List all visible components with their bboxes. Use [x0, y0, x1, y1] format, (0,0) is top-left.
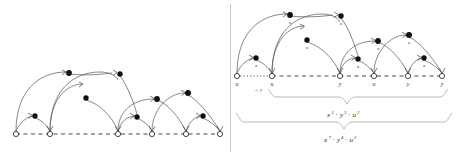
right-arc-15	[408, 58, 421, 73]
node-open-circle	[13, 131, 18, 136]
right-arc-12	[378, 42, 408, 73]
left-derivation-diagram	[13, 70, 223, 137]
lower-brace	[236, 113, 452, 129]
left-arc-15	[186, 116, 200, 131]
upper-brace-formula: x 5 · y 3 · u 2	[326, 110, 360, 120]
right-arc-16	[424, 60, 442, 73]
formula-exponent: 2	[357, 110, 360, 115]
formula-exponent: 5	[332, 110, 335, 115]
node-filled-dot	[185, 90, 191, 96]
baseline-node-label: y	[338, 81, 342, 87]
node-filled-dot	[375, 38, 381, 44]
dot-label: x	[376, 46, 380, 51]
right-arc-5	[307, 42, 340, 73]
formula-term: x	[326, 111, 331, 119]
node-open-circle	[217, 131, 222, 136]
left-arc-5	[86, 100, 118, 131]
dot-label: x	[407, 40, 411, 45]
right-arc-8	[256, 60, 272, 73]
figure-canvas: x x x x x x x x u u y u y y → y x 5 · y …	[0, 0, 462, 155]
node-open-circle	[439, 73, 444, 78]
node-filled-dot	[406, 32, 412, 38]
node-open-circle	[183, 131, 188, 136]
node-open-circle	[337, 73, 342, 78]
maps-to-y-label: → y	[254, 87, 263, 92]
right-arc-2	[272, 14, 340, 73]
node-filled-dot	[66, 70, 72, 76]
node-filled-dot	[287, 12, 293, 18]
left-arc-8	[35, 118, 50, 131]
formula-exponent: 7	[329, 135, 332, 140]
lower-brace-formula: x 7 · y 4 · u 2	[323, 135, 357, 145]
baseline-node-label: u	[271, 81, 274, 87]
left-arc-2	[50, 72, 118, 131]
left-arc-16	[203, 118, 220, 131]
node-filled-dot	[355, 56, 360, 61]
formula-dot: ·	[348, 111, 350, 119]
upper-brace	[268, 89, 448, 104]
dot-label: x	[356, 64, 360, 69]
node-open-circle	[405, 73, 410, 78]
right-filled-dots	[253, 12, 426, 62]
right-arc-1	[237, 14, 287, 73]
node-open-circle	[371, 73, 376, 78]
left-arc-4	[50, 84, 83, 131]
right-baseline-labels: u u y u y y	[236, 81, 444, 87]
right-arc-4	[272, 26, 304, 73]
node-open-circle	[115, 131, 120, 136]
formula-term: u	[353, 111, 357, 119]
baseline-node-label: y	[406, 81, 410, 87]
formula-term: x	[323, 136, 328, 144]
right-dot-labels: x x x x x x x x	[254, 20, 426, 69]
node-filled-dot	[83, 95, 88, 100]
formula-dot: ·	[345, 136, 347, 144]
node-filled-dot	[338, 13, 343, 18]
dot-label: x	[339, 21, 343, 26]
right-baseline-nodes	[234, 73, 444, 78]
node-open-circle	[269, 73, 274, 78]
left-arc-1	[16, 72, 66, 131]
left-arc-6	[120, 76, 137, 114]
node-filled-dot	[304, 37, 309, 42]
left-arc-10	[137, 118, 152, 131]
baseline-node-label: u	[373, 81, 376, 87]
dot-label: x	[254, 63, 258, 68]
formula-dot: ·	[333, 136, 335, 144]
right-arc-10	[358, 60, 374, 73]
left-arc-3	[69, 73, 112, 75]
node-open-circle	[47, 131, 52, 136]
right-arc-7	[237, 58, 253, 73]
formula-exponent: 4	[341, 135, 344, 140]
node-filled-dot	[117, 71, 122, 76]
node-filled-dot	[253, 55, 258, 60]
formula-term: u	[350, 136, 354, 144]
dot-label: x	[305, 45, 309, 50]
right-derivation-diagram: x x x x x x x x u u y u y y → y x 5 · y …	[234, 12, 452, 144]
formula-dot: ·	[336, 111, 338, 119]
node-filled-dot	[154, 96, 160, 102]
node-filled-dot	[32, 113, 37, 118]
formula-exponent: 3	[344, 110, 347, 115]
left-arc-7	[16, 116, 32, 131]
baseline-node-label: u	[236, 81, 239, 87]
dot-label: x	[422, 63, 426, 68]
node-filled-dot	[134, 114, 139, 119]
node-open-circle	[149, 131, 154, 136]
baseline-node-label: y	[440, 81, 444, 87]
formula-exponent: 2	[354, 135, 357, 140]
node-filled-dot	[421, 55, 426, 60]
node-open-circle	[234, 73, 239, 78]
node-filled-dot	[200, 113, 205, 118]
